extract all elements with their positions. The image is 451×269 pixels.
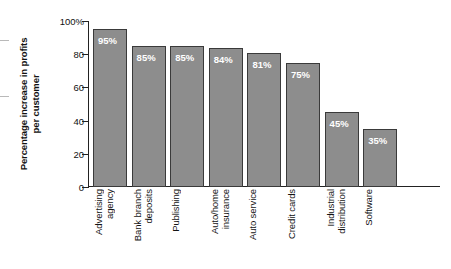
x-axis-label-rotated: Credit cards [286, 189, 320, 269]
x-axis-category-labels: AdvertisingagencyBank branchdepositsPubl… [89, 189, 440, 269]
y-axis-tick-label: 60 [48, 82, 84, 93]
bar[interactable]: 95% [93, 29, 127, 187]
bar-slot: 95% [93, 21, 127, 187]
x-axis-label-line: Industrial [325, 189, 336, 227]
bar-slot: 85% [170, 21, 204, 187]
y-axis-title: Percentage increase in profits per custo… [14, 14, 46, 194]
bar-value-label: 84% [214, 54, 233, 65]
x-axis-label-rotated: Software [363, 189, 397, 269]
bar-slot: 35% [363, 21, 397, 187]
y-axis-tick-mark [82, 187, 89, 188]
x-axis-label-line: Credit cards [286, 189, 297, 239]
y-axis-tick-label: 20 [48, 148, 84, 159]
bar-value-label: 95% [98, 35, 117, 46]
x-axis-label-line: Auto service [247, 189, 258, 240]
x-axis-label-line: distribution [336, 189, 347, 234]
y-axis-tick-label: 0 [48, 182, 84, 193]
x-axis-label-line: Publishing [170, 189, 181, 232]
bar[interactable]: 81% [247, 53, 281, 187]
x-axis-label: Auto service [247, 189, 281, 269]
y-axis-tick-label: 80 [48, 49, 84, 60]
x-axis-label: Credit cards [286, 189, 320, 269]
x-axis-label: Publishing [170, 189, 204, 269]
bar[interactable]: 45% [325, 112, 359, 187]
scan-artifact [0, 96, 9, 97]
x-axis-label-rotated: Advertisingagency [93, 189, 127, 269]
x-axis-label: Auto/homeinsurance [209, 189, 243, 269]
x-axis-label-rotated: Publishing [170, 189, 204, 269]
y-axis-tick-label: 40 [48, 115, 84, 126]
bar[interactable]: 85% [132, 46, 166, 187]
plot-area: 95%85%85%84%81%75%45%35% [89, 21, 440, 187]
x-axis-label-line: Bank branch [132, 189, 143, 241]
bar-value-label: 75% [291, 69, 310, 80]
x-axis-label-line: Auto/home [209, 189, 220, 234]
scan-artifact [0, 40, 9, 41]
y-axis-tick-labels: 020406080100% [48, 0, 84, 269]
bar[interactable]: 35% [363, 129, 397, 187]
bar-slot: 84% [209, 21, 243, 187]
x-axis-label-rotated: Industrialdistribution [325, 189, 359, 269]
x-axis-label-rotated: Auto/homeinsurance [209, 189, 243, 269]
x-axis-label-line: agency [104, 189, 115, 219]
x-axis-label-rotated: Bank branchdeposits [132, 189, 166, 269]
bar-value-label: 35% [368, 135, 387, 146]
x-axis-label-line: insurance [220, 189, 231, 229]
x-axis-label: Advertisingagency [93, 189, 127, 269]
x-axis-label-line: Software [363, 189, 374, 226]
x-axis-label-rotated: Auto service [247, 189, 281, 269]
x-axis-label: Bank branchdeposits [132, 189, 166, 269]
bar[interactable]: 75% [286, 63, 320, 188]
x-axis-label-line: Advertising [93, 189, 104, 235]
bar-value-label: 81% [252, 59, 271, 70]
bar[interactable]: 85% [170, 46, 204, 187]
y-axis-tick-label: 100% [48, 16, 84, 27]
bar-slot: 85% [132, 21, 166, 187]
x-axis-label: Software [363, 189, 397, 269]
bar-value-label: 85% [137, 52, 156, 63]
bar-slot: 45% [325, 21, 359, 187]
x-axis-label: Industrialdistribution [325, 189, 359, 269]
x-axis-label-line: deposits [143, 189, 154, 224]
y-axis-title-line-2: per customer [30, 75, 43, 134]
bar[interactable]: 84% [209, 48, 243, 187]
bar-slot: 81% [247, 21, 281, 187]
bar-slot: 75% [286, 21, 320, 187]
bar-value-label: 45% [330, 118, 349, 129]
chart-page: Percentage increase in profits per custo… [0, 0, 451, 269]
y-axis-title-line-1: Percentage increase in profits [18, 38, 31, 171]
bar-value-label: 85% [175, 52, 194, 63]
